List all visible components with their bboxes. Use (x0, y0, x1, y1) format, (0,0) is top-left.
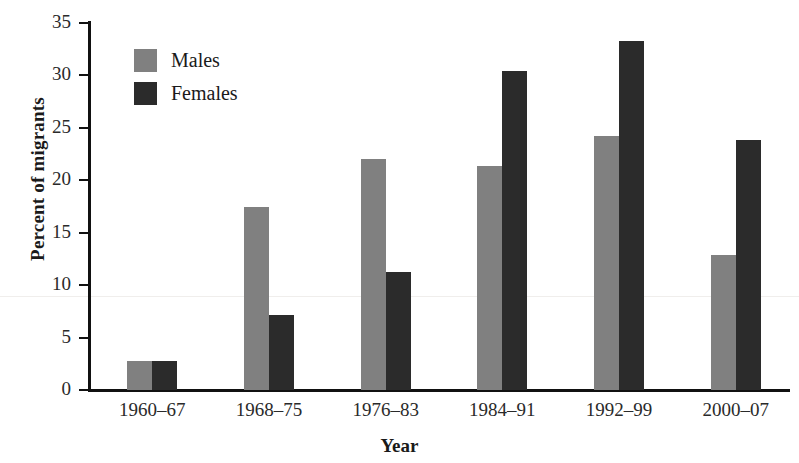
x-tick-label: 2000–07 (676, 399, 796, 421)
legend-swatch-females-icon (134, 82, 157, 105)
x-axis-title: Year (0, 435, 799, 457)
bar-females-0 (152, 361, 177, 390)
y-tick-label: 30 (11, 63, 71, 85)
y-tick-label: 5 (11, 326, 71, 348)
legend-label-males: Males (171, 49, 220, 72)
legend-swatch-males-icon (134, 49, 157, 72)
y-tick-label: 35 (11, 11, 71, 33)
bar-females-4 (619, 41, 644, 390)
bar-females-1 (269, 315, 294, 390)
bar-chart: Percent of migrants 05101520253035 1960–… (0, 0, 799, 463)
y-tick-label: 25 (11, 116, 71, 138)
bar-males-2 (361, 159, 386, 390)
y-tick-mark (79, 284, 89, 286)
bar-males-5 (711, 255, 736, 390)
y-tick-label: 0 (11, 378, 71, 400)
y-tick-label: 15 (11, 221, 71, 243)
bar-males-4 (594, 136, 619, 390)
legend-item-males: Males (134, 44, 238, 77)
bar-males-3 (477, 166, 502, 390)
bar-females-5 (736, 140, 761, 390)
x-tick-label: 1992–99 (559, 399, 679, 421)
bar-females-3 (502, 71, 527, 390)
y-tick-mark (79, 127, 89, 129)
bar-males-0 (127, 361, 152, 390)
legend-item-females: Females (134, 77, 238, 110)
x-tick-label: 1984–91 (442, 399, 562, 421)
bar-males-1 (244, 207, 269, 391)
x-tick-label: 1960–67 (92, 399, 212, 421)
x-tick-label: 1976–83 (326, 399, 446, 421)
y-tick-mark (79, 22, 89, 24)
x-tick-label: 1968–75 (209, 399, 329, 421)
y-tick-label: 20 (11, 168, 71, 190)
y-tick-mark (79, 74, 89, 76)
y-tick-mark (79, 337, 89, 339)
chart-legend: Males Females (134, 44, 238, 110)
legend-label-females: Females (171, 82, 238, 105)
y-tick-label: 10 (11, 273, 71, 295)
bar-females-2 (386, 272, 411, 390)
y-tick-mark (79, 179, 89, 181)
y-tick-mark (79, 389, 89, 391)
y-tick-mark (79, 232, 89, 234)
